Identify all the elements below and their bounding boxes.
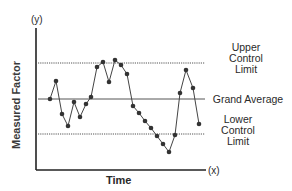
data-point <box>197 122 202 127</box>
data-point <box>54 79 59 84</box>
grand-average-label: Grand Average <box>208 94 288 105</box>
data-point <box>72 100 77 105</box>
data-point <box>191 86 196 91</box>
data-point <box>113 58 118 63</box>
data-point <box>60 112 65 117</box>
data-point <box>184 68 189 73</box>
data-point <box>161 142 166 147</box>
data-point <box>107 80 112 85</box>
data-point <box>155 134 160 139</box>
x-axis-label: Time <box>106 175 131 186</box>
data-point <box>101 60 106 65</box>
data-point <box>125 72 130 77</box>
data-point <box>66 124 71 129</box>
data-point <box>131 104 136 109</box>
data-point <box>95 65 100 70</box>
data-point <box>119 63 124 68</box>
data-point <box>78 115 83 120</box>
data-point <box>137 111 142 116</box>
x-axis-marker: (x) <box>208 165 220 176</box>
data-point <box>89 95 94 100</box>
lcl-label: LowerControlLimit <box>210 114 266 147</box>
data-point <box>48 97 53 102</box>
data-point <box>178 91 183 96</box>
data-point <box>167 150 172 155</box>
data-point <box>84 102 89 107</box>
data-point <box>149 126 154 131</box>
y-axis-marker: (y) <box>31 14 43 25</box>
y-axis-label: Measured Factor <box>9 50 23 160</box>
data-series-line <box>50 60 199 152</box>
ucl-label: UpperControlLimit <box>218 42 274 75</box>
data-point <box>173 133 178 138</box>
data-point <box>143 119 148 124</box>
